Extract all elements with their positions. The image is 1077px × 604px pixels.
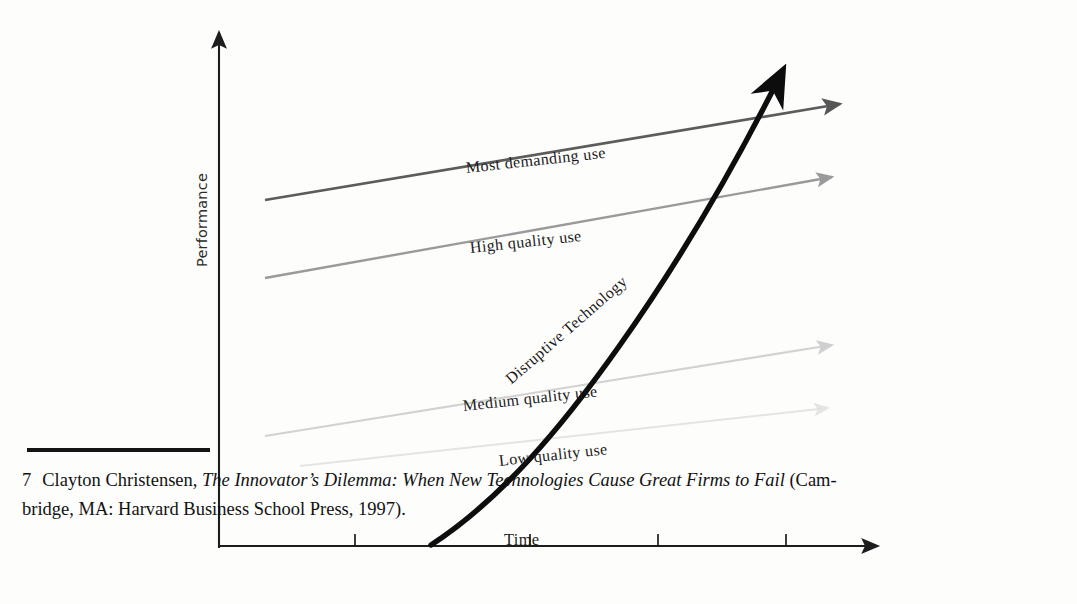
x-axis-label: Time [504,530,539,550]
footnote-number: 7 [22,470,31,490]
footnote-citation: 7Clayton Christensen, The Innovator’s Di… [22,466,1062,524]
footnote-author: Clayton Christensen, [42,470,197,490]
x-axis [218,534,878,546]
footnote-line-2: bridge, MA: Harvard Business School Pres… [22,495,1062,524]
book-page: Performance Time Most demanding use High… [0,0,1077,604]
y-axis-label: Performance [194,145,210,295]
series-high-quality-use [265,177,832,278]
footnote-rule [27,448,210,452]
footnote-publication: (Cam- [789,470,836,490]
footnote-title: The Innovator’s Dilemma: When New Techno… [202,470,785,490]
